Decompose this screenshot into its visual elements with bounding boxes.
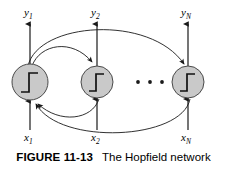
connection-2-to-1 xyxy=(38,99,99,117)
figure-caption-label: FIGURE 11-13 xyxy=(16,151,93,163)
neuron-n-body xyxy=(172,66,204,98)
neuron-1[interactable] xyxy=(12,64,48,100)
ellipsis-dot xyxy=(136,80,140,84)
figure-caption: FIGURE 11-13 The Hopfield network xyxy=(0,147,227,167)
neuron-2[interactable] xyxy=(81,66,113,98)
input-label-x1: x1 xyxy=(24,132,33,146)
connection-1-to-2 xyxy=(32,47,92,66)
ellipsis-dots xyxy=(136,80,164,84)
neuron-1-body xyxy=(12,64,48,100)
ellipsis-dot xyxy=(148,80,152,84)
input-label-x2: x2 xyxy=(91,132,100,146)
output-label-yN: yN xyxy=(181,7,191,21)
hopfield-network-figure: y1 y2 yN x1 x2 xN FIGURE 11-13 The Hopfi… xyxy=(0,0,227,173)
output-label-y2: y2 xyxy=(91,7,100,21)
ellipsis-dot xyxy=(160,80,164,84)
figure-caption-text: The Hopfield network xyxy=(102,151,211,163)
output-label-y1: y1 xyxy=(24,7,33,21)
neuron-2-body xyxy=(81,66,113,98)
neuron-n[interactable] xyxy=(172,66,204,98)
input-label-xN: xN xyxy=(181,132,191,146)
